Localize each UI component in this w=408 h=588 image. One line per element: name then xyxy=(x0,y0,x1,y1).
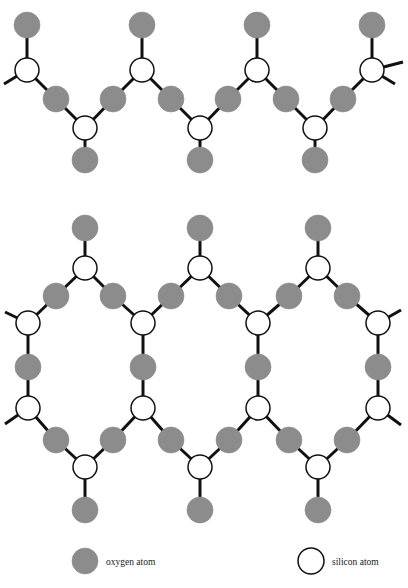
sheet-oxygen-atom xyxy=(15,354,41,380)
sheet-oxygen-atom xyxy=(334,283,360,309)
sheet-oxygen-atom xyxy=(216,283,242,309)
sheet-oxygen-atom xyxy=(276,283,302,309)
sheet-silicon-atom xyxy=(131,396,155,420)
sheet-oxygen-atom xyxy=(305,215,331,241)
chain-oxygen-atom xyxy=(273,86,299,112)
sheet-silicon-atom xyxy=(16,311,40,335)
legend-silicon-label: silicon atom xyxy=(332,557,379,567)
chain-oxygen-atom xyxy=(129,12,155,38)
chain-oxygen-atom xyxy=(244,12,270,38)
legend: oxygen atomsilicon atom xyxy=(72,548,379,574)
sheet-silicon-atom xyxy=(16,396,40,420)
sheet-silicon-group xyxy=(16,256,390,479)
chain-oxygen-atom xyxy=(330,86,356,112)
chain-silicon-atom xyxy=(303,116,327,140)
chain-silicon-atom xyxy=(245,58,269,82)
chain-oxygen-atom xyxy=(187,147,213,173)
diagram-canvas: oxygen atomsilicon atom xyxy=(0,0,408,588)
sheet-oxygen-atom xyxy=(158,427,184,453)
legend-oxygen-marker-icon xyxy=(72,548,98,574)
sheet-silicon-atom xyxy=(73,256,97,280)
chain-silicon-atom xyxy=(73,116,97,140)
chain-oxygen-atom xyxy=(215,86,241,112)
sheet-oxygen-atom xyxy=(187,497,213,523)
sheet-silicon-atom xyxy=(246,311,270,335)
sheet-oxygen-atom xyxy=(100,283,126,309)
sheet-oxygen-atom xyxy=(158,283,184,309)
sheet-oxygen-atom xyxy=(43,427,69,453)
legend-silicon-marker-icon xyxy=(298,548,324,574)
chain-oxygen-atom xyxy=(43,86,69,112)
sheet-oxygen-atom xyxy=(305,497,331,523)
sheet-silicon-atom xyxy=(246,396,270,420)
chain-oxygen-atom xyxy=(14,12,40,38)
legend-oxygen-label: oxygen atom xyxy=(106,557,156,567)
chain-silicon-atom xyxy=(360,58,384,82)
sheet-oxygen-atom xyxy=(72,215,98,241)
chain-oxygen-atom xyxy=(72,147,98,173)
sheet-oxygen-atom xyxy=(72,497,98,523)
sheet-oxygen-atom xyxy=(216,427,242,453)
chain-oxygen-atom xyxy=(359,12,385,38)
chain-oxygen-group xyxy=(14,12,385,173)
sheet-oxygen-atom xyxy=(276,427,302,453)
sheet-silicon-atom xyxy=(306,256,330,280)
sheet-oxygen-atom xyxy=(43,283,69,309)
sheet-oxygen-atom xyxy=(365,354,391,380)
sheet-oxygen-atom xyxy=(245,354,271,380)
chain-silicon-atom xyxy=(15,58,39,82)
sheet-silicon-atom xyxy=(131,311,155,335)
silicate-structure-figure: oxygen atomsilicon atom xyxy=(0,0,408,588)
sheet-oxygen-atom xyxy=(334,427,360,453)
sheet-silicon-atom xyxy=(366,396,390,420)
chain-oxygen-atom xyxy=(100,86,126,112)
sheet-silicon-atom xyxy=(366,311,390,335)
sheet-silicon-atom xyxy=(188,455,212,479)
sheet-oxygen-atom xyxy=(100,427,126,453)
sheet-silicon-atom xyxy=(188,256,212,280)
chain-oxygen-atom xyxy=(158,86,184,112)
sheet-silicon-atom xyxy=(73,455,97,479)
sheet-oxygen-atom xyxy=(187,215,213,241)
chain-oxygen-atom xyxy=(302,147,328,173)
chain-silicon-group xyxy=(15,58,384,140)
chain-silicon-atom xyxy=(130,58,154,82)
sheet-silicon-atom xyxy=(306,455,330,479)
sheet-oxygen-atom xyxy=(130,354,156,380)
chain-silicon-atom xyxy=(188,116,212,140)
